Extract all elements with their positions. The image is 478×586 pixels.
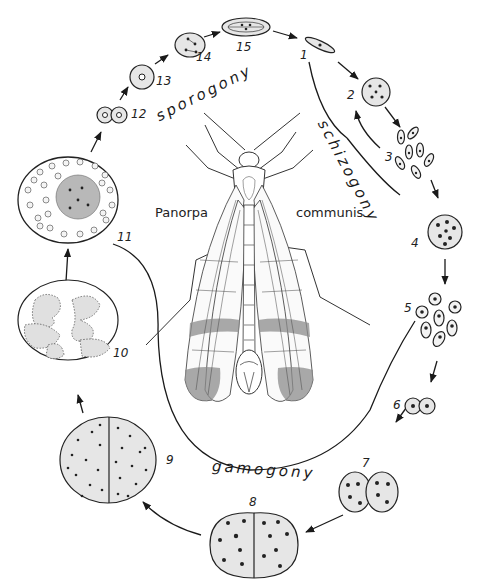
- stage-number-13: 13: [156, 74, 171, 88]
- stage-13-sporoblast: [130, 65, 154, 89]
- stage-10-gamete-formation: [18, 280, 118, 360]
- stage-number-15: 15: [236, 40, 251, 54]
- stage-number-3: 3: [385, 150, 393, 164]
- stage-7-gamonts: [339, 472, 398, 512]
- stage-number-12: 12: [131, 107, 146, 121]
- stage-number-5: 5: [404, 301, 412, 315]
- stage-1-sporozoite: [304, 35, 336, 56]
- genus-label: Panorpa: [155, 205, 208, 220]
- stage-number-10: 10: [113, 346, 128, 360]
- stage-15-spore: [222, 18, 270, 36]
- stage-number-14: 14: [196, 50, 211, 64]
- stage-number-9: 9: [166, 453, 174, 467]
- stage-6-gamont-pair: [405, 398, 435, 414]
- stage-3-merozoites: [393, 125, 435, 179]
- stage-9-gamontocyst: [60, 417, 156, 503]
- stage-number-7: 7: [362, 456, 370, 470]
- stage-number-6: 6: [393, 398, 401, 412]
- stage-number-4: 4: [411, 236, 419, 250]
- life-cycle-diagram: Panorpa communis sporogony schizogony ga…: [0, 0, 478, 586]
- stage-number-1: 1: [300, 48, 308, 62]
- stage-number-2: 2: [347, 88, 355, 102]
- species-epithet-label: communis: [296, 205, 363, 220]
- stage-12-zygote-pair: [97, 107, 127, 123]
- stage-number-8: 8: [249, 495, 257, 509]
- stage-8-gamontocyst: [210, 513, 298, 578]
- stage-11-oocyst: [18, 157, 118, 243]
- stage-number-11: 11: [117, 230, 132, 244]
- stage-5-merozoites: [416, 293, 461, 348]
- stage-4-schizont: [428, 215, 462, 249]
- stage-2-schizont: [362, 78, 390, 106]
